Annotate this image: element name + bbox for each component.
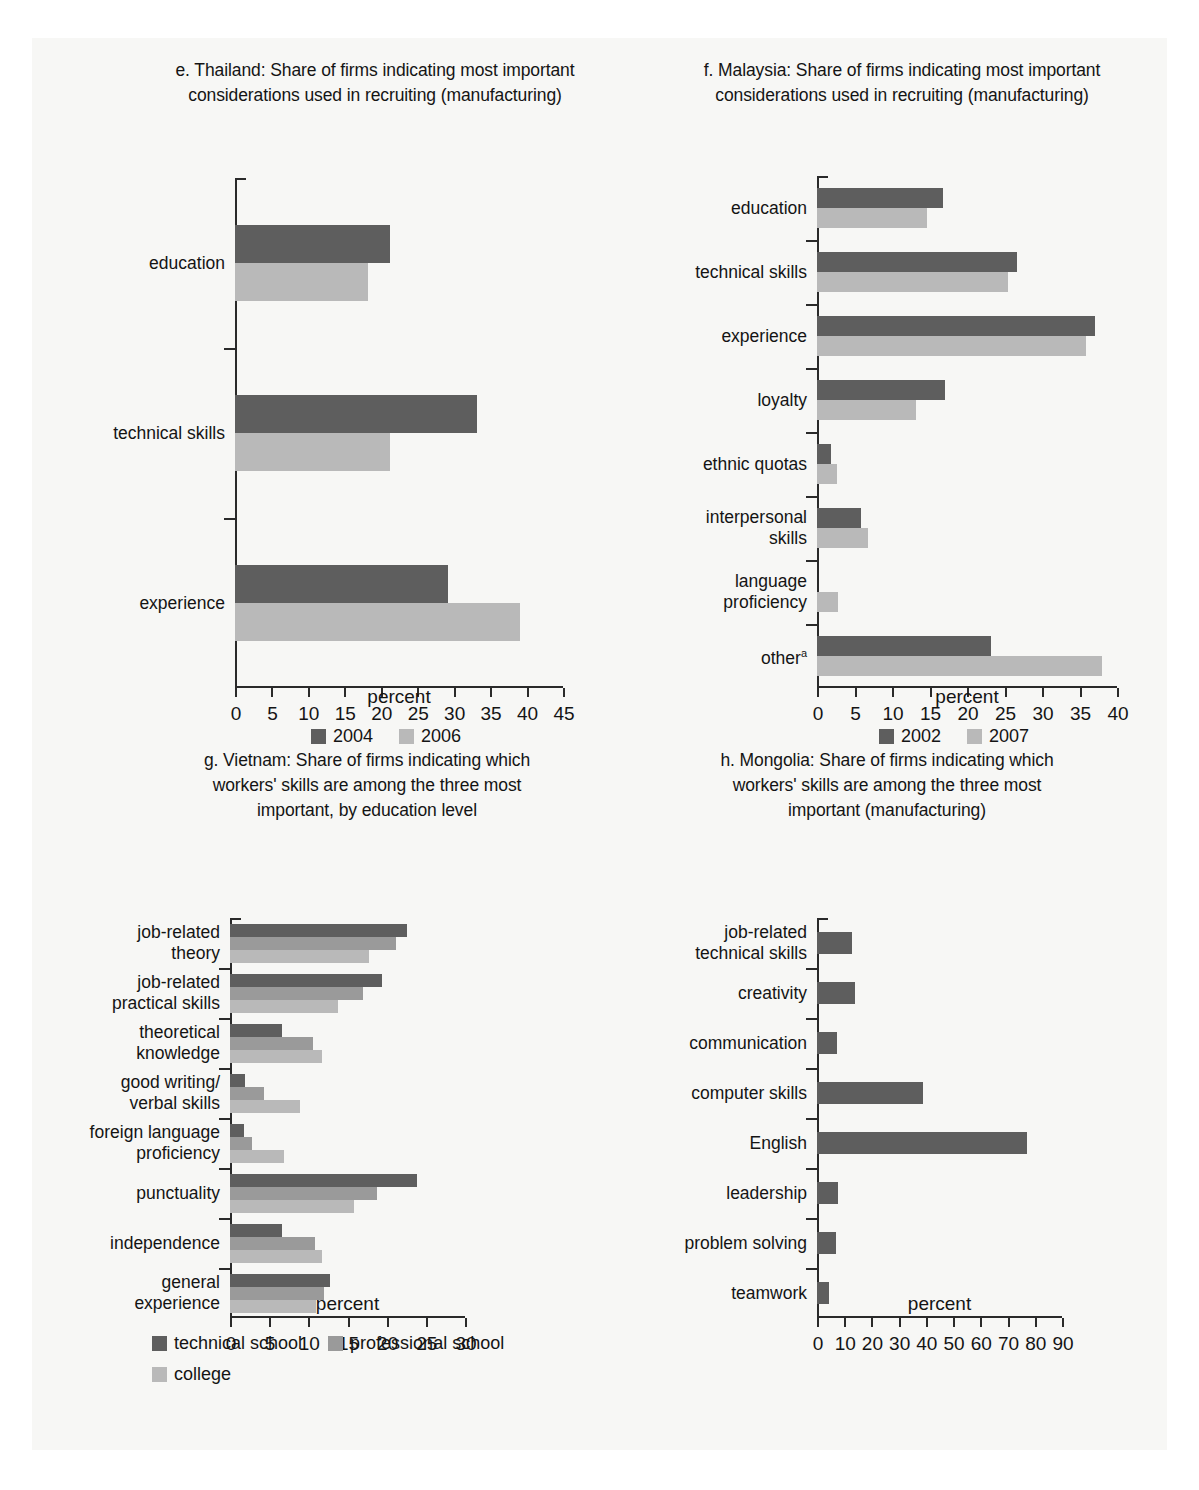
y-tick	[806, 496, 817, 498]
x-tick	[348, 1318, 350, 1327]
chart-title-vietnam-line2: workers' skills are among the three most	[132, 773, 602, 798]
bar	[230, 1274, 330, 1287]
bar	[817, 1032, 837, 1054]
bar	[230, 1074, 245, 1087]
legend-item[interactable]: 2006	[399, 726, 461, 747]
y-tick	[806, 304, 817, 306]
x-tick	[563, 688, 565, 697]
x-tick-label: 50	[944, 1333, 965, 1355]
bar	[230, 974, 382, 987]
bar	[817, 1132, 1027, 1154]
x-tick-label: 40	[916, 1333, 937, 1355]
bar	[817, 982, 855, 1004]
y-tick	[806, 1118, 817, 1120]
legend-swatch	[311, 729, 326, 744]
x-tick-label: 0	[813, 1333, 824, 1355]
legend-swatch	[399, 729, 414, 744]
legend-item[interactable]: 2007	[967, 726, 1029, 747]
x-tick	[871, 1318, 873, 1327]
bar	[235, 225, 390, 263]
y-tick	[224, 348, 235, 350]
category-label: technical skills	[25, 423, 225, 444]
chart-title-thailand-line1: e. Thailand: Share of firms indicating m…	[150, 58, 600, 83]
chart-title-malaysia-line1: f. Malaysia: Share of firms indicating m…	[672, 58, 1132, 83]
bar	[230, 1100, 300, 1113]
legend-label: 2002	[901, 726, 941, 747]
x-tick-label: 60	[971, 1333, 992, 1355]
x-tick	[387, 1318, 389, 1327]
bar	[230, 950, 369, 963]
bar	[817, 464, 837, 484]
legend-label: 2007	[989, 726, 1029, 747]
x-tick-label: 80	[1025, 1333, 1046, 1355]
legend-label: technical school	[174, 1333, 302, 1354]
x-tick	[1062, 1318, 1064, 1327]
bar	[230, 1200, 354, 1213]
y-tick	[806, 968, 817, 970]
y-tick	[219, 1118, 230, 1120]
bar	[230, 1024, 282, 1037]
bar	[230, 1237, 315, 1250]
legend-swatch	[967, 729, 982, 744]
chart-title-mongolia-line2: workers' skills are among the three most	[652, 773, 1122, 798]
plot-area-malaysia: 0510152025303540educationtechnical skill…	[817, 176, 1117, 688]
y-axis-top-cap	[817, 918, 828, 920]
bar	[235, 603, 520, 641]
legend-swatch	[152, 1336, 167, 1351]
y-tick	[806, 432, 817, 434]
x-tick-label: 90	[1052, 1333, 1073, 1355]
bar	[817, 316, 1095, 336]
legend-item[interactable]: technical school	[152, 1333, 302, 1354]
category-label: othera	[667, 643, 807, 669]
chart-title-vietnam-line1: g. Vietnam: Share of firms indicating wh…	[132, 748, 602, 773]
legend-label: college	[174, 1364, 231, 1385]
chart-title-malaysia-line2: considerations used in recruiting (manuf…	[672, 83, 1132, 108]
category-label: creativity	[647, 983, 807, 1004]
category-label: teamwork	[647, 1283, 807, 1304]
y-tick	[219, 1068, 230, 1070]
bar	[235, 433, 390, 471]
category-label: loyalty	[667, 390, 807, 411]
x-tick	[426, 1318, 428, 1327]
chart-panel-thailand: e. Thailand: Share of firms indicating m…	[150, 58, 600, 758]
bar	[230, 1000, 338, 1013]
y-tick	[806, 1018, 817, 1020]
chart-panel-vietnam: g. Vietnam: Share of firms indicating wh…	[132, 748, 602, 1448]
legend-item[interactable]: professional school	[328, 1333, 504, 1354]
axis-title-thailand: percent	[235, 686, 563, 708]
bar	[817, 380, 945, 400]
bar	[817, 1082, 923, 1104]
x-tick	[899, 1318, 901, 1327]
category-label: technical skills	[667, 262, 807, 283]
category-label: interpersonalskills	[667, 507, 807, 549]
chart-title-vietnam-line3: important, by education level	[132, 798, 602, 823]
y-tick	[806, 240, 817, 242]
legend-item[interactable]: 2002	[879, 726, 941, 747]
category-label: education	[25, 253, 225, 274]
category-label: computer skills	[647, 1083, 807, 1104]
y-tick	[806, 368, 817, 370]
x-tick	[269, 1318, 271, 1327]
x-tick	[1008, 1318, 1010, 1327]
bar	[817, 592, 838, 612]
chart-title-mongolia: h. Mongolia: Share of firms indicating w…	[652, 748, 1122, 823]
legend-label: 2004	[333, 726, 373, 747]
bar	[230, 987, 363, 1000]
y-tick	[219, 1168, 230, 1170]
figure-page: e. Thailand: Share of firms indicating m…	[32, 38, 1167, 1450]
x-tick-label: 20	[862, 1333, 883, 1355]
category-label: languageproficiency	[667, 571, 807, 613]
category-label: experience	[667, 326, 807, 347]
bar	[817, 208, 927, 228]
bar	[817, 188, 943, 208]
legend-malaysia: 20022007	[817, 726, 1117, 747]
bar	[817, 1232, 836, 1254]
legend-item[interactable]: 2004	[311, 726, 373, 747]
x-tick	[1035, 1318, 1037, 1327]
legend-item[interactable]: college	[152, 1364, 231, 1385]
category-label: problem solving	[647, 1233, 807, 1254]
y-axis-top-cap	[817, 176, 828, 178]
axis-title-malaysia: percent	[817, 686, 1117, 708]
bar	[817, 336, 1086, 356]
category-label: job-relatedpractical skills	[60, 972, 220, 1014]
